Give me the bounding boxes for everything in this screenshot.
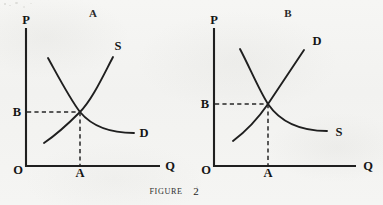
panel-b-y-axis-label: P [210, 13, 218, 27]
figure-caption: FIGURE 2 [149, 185, 198, 197]
panel-a-demand-label: D [139, 126, 148, 140]
panel-a: A P Q O S D B A [13, 7, 175, 180]
figure-caption-label: FIGURE [149, 187, 182, 196]
panel-a-quantity-tick-label: A [75, 166, 84, 180]
figure-canvas: A P Q O S D B A B P Q [0, 0, 383, 205]
panel-a-demand-curve [48, 58, 134, 133]
panel-b-price-tick-label: B [201, 97, 209, 111]
panel-b-quantity-tick-label: A [263, 166, 272, 180]
panel-a-origin-label: O [13, 163, 23, 177]
panel-b-supply-curve [240, 49, 327, 131]
panel-b-origin-label: O [201, 163, 211, 177]
panel-b: B P Q O D S B A [201, 7, 373, 180]
panel-a-y-axis-label: P [22, 13, 30, 27]
panel-a-supply-label: S [115, 39, 122, 53]
panel-a-x-axis-label: Q [165, 159, 175, 173]
panel-b-title: B [284, 7, 292, 19]
panel-a-price-tick-label: B [13, 105, 21, 119]
panel-b-supply-label: S [336, 125, 343, 139]
panel-b-demand-label: D [312, 34, 321, 48]
figure-caption-number: 2 [193, 185, 199, 197]
panel-b-x-axis-label: Q [363, 159, 373, 173]
economics-figure: A P Q O S D B A B P Q [0, 0, 383, 205]
panel-a-title: A [89, 7, 97, 19]
